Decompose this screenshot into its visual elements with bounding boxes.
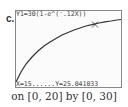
graph-plot <box>15 10 122 88</box>
cursor-y-value: Y=25.041033 <box>55 80 98 88</box>
cursor-x-value: X=15 <box>16 80 32 88</box>
equation-display: Y1=30(1-e^(⁻.12X)) <box>16 10 86 18</box>
window-caption: on [0, 20] by [0, 30] <box>0 90 128 102</box>
function-curve <box>16 20 121 83</box>
problem-label: c. <box>6 13 14 24</box>
trace-status: X=15......Y=25.041033 <box>16 80 98 88</box>
status-dots: ...... <box>32 80 55 88</box>
